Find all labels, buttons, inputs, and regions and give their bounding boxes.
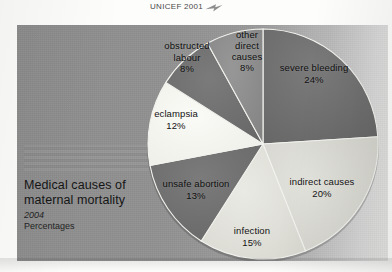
pie-label-other-direct-causes-name3: causes: [232, 51, 263, 62]
pie-label-infection-name: infection: [234, 225, 270, 236]
pie-label-obstructed-labour-value: 8%: [152, 63, 222, 75]
pie-label-eclampsia-value: 12%: [140, 120, 212, 132]
pie-label-obstructed-labour-name1: obstructed: [164, 40, 209, 51]
pie-label-severe-bleeding-name: severe bleeding: [280, 62, 349, 73]
pie-label-severe-bleeding: severe bleeding 24%: [268, 62, 360, 85]
pie-label-other-direct-causes-name1: other: [236, 29, 258, 40]
pie-label-severe-bleeding-value: 24%: [268, 74, 360, 86]
pie-label-eclampsia: eclampsia 12%: [140, 108, 212, 131]
arrow-pointer-icon: [205, 3, 223, 12]
pie-label-eclampsia-name: eclampsia: [154, 108, 198, 119]
figure-year: 2004: [24, 210, 126, 221]
pie-label-other-direct-causes-value: 8%: [224, 62, 270, 73]
pie-label-unsafe-abortion-name: unsafe abortion: [163, 178, 230, 189]
pie-label-other-direct-causes: other direct causes 8%: [224, 29, 270, 73]
pie-label-other-direct-causes-name2: direct: [235, 40, 259, 51]
pie-slice-severe-bleeding: [263, 29, 378, 144]
figure-caption: Medical causes of maternal mortality 200…: [24, 178, 126, 232]
pie-label-unsafe-abortion: unsafe abortion 13%: [148, 178, 244, 201]
pie-label-infection: infection 15%: [215, 225, 289, 248]
figure-title-line2: maternal mortality: [24, 193, 126, 208]
pie-label-obstructed-labour-name2: labour: [173, 52, 200, 63]
pie-label-indirect-causes-value: 20%: [272, 188, 372, 200]
pie-label-indirect-causes: indirect causes 20%: [272, 176, 372, 199]
pie-label-indirect-causes-name: indirect causes: [290, 176, 355, 187]
figure-units: Percentages: [24, 221, 126, 232]
pie-label-obstructed-labour: obstructed labour 8%: [152, 40, 222, 75]
pie-label-unsafe-abortion-value: 13%: [148, 190, 244, 202]
figure-page: UNICEF 2001: [0, 0, 392, 272]
pie-label-infection-value: 15%: [215, 237, 289, 249]
figure-title-line1: Medical causes of: [24, 178, 126, 193]
source-credit: UNICEF 2001: [150, 2, 203, 11]
